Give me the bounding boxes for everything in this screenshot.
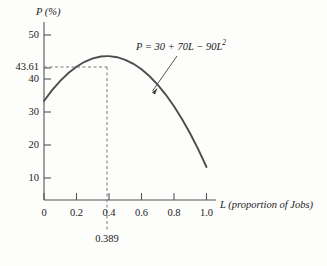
equation-annotation: P = 30 + 70L − 90L2 xyxy=(136,39,226,52)
y-tick-label-20: 20 xyxy=(8,140,39,151)
y-tick-label-highlight: 43.61 xyxy=(2,62,39,73)
y-axis-title: P (%) xyxy=(36,7,61,18)
x-tick-label-0-4: 0.4 xyxy=(97,208,122,219)
x-axis-ticks xyxy=(44,193,207,200)
x-tick-label-0-8: 0.8 xyxy=(162,208,187,219)
x-tick-label-0-6: 0.6 xyxy=(129,208,154,219)
x-tick-label-0: 0 xyxy=(34,208,54,219)
y-tick-label-30: 30 xyxy=(8,107,39,118)
profit-vs-jobs-figure: P (%) L (proportion of Jobs) 50 43.61 40… xyxy=(0,0,327,266)
x-tick-label-1-0: 1.0 xyxy=(194,208,219,219)
equation-annotation-exponent: 2 xyxy=(222,38,226,47)
vertex-x-label: 0.389 xyxy=(87,234,127,245)
x-tick-label-0-2: 0.2 xyxy=(64,208,89,219)
y-tick-label-40: 40 xyxy=(8,74,39,85)
y-axis-ticks xyxy=(44,35,51,178)
y-tick-label-10: 10 xyxy=(8,173,39,184)
x-axis-title: L (proportion of Jobs) xyxy=(220,200,313,211)
annotation-arrow-head xyxy=(152,88,158,95)
annotation-arrow-line xyxy=(153,56,178,91)
y-tick-label-50: 50 xyxy=(8,30,39,41)
profit-curve xyxy=(44,56,207,167)
equation-annotation-text: P = 30 + 70L − 90L xyxy=(136,41,222,52)
